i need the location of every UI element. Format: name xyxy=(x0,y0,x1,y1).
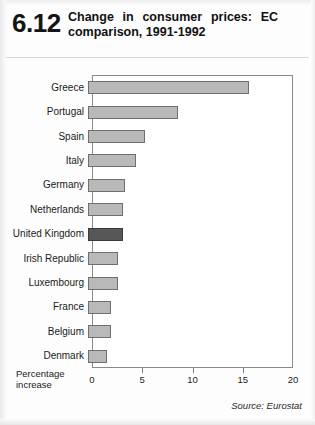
bar-label-greece: Greece xyxy=(0,82,88,93)
x-tick-label: 20 xyxy=(288,374,299,385)
page-edge-bottom xyxy=(0,419,315,425)
bar-track xyxy=(88,223,289,245)
bar-track xyxy=(88,125,289,147)
bar-portugal xyxy=(88,106,178,119)
bar-track xyxy=(88,76,289,98)
bar-label-italy: Italy xyxy=(0,155,88,166)
x-tick-label: 0 xyxy=(89,374,94,385)
bar-track xyxy=(88,320,289,342)
bar-label-united-kingdom: United Kingdom xyxy=(0,228,88,239)
bar-rows: GreecePortugalSpainItalyGermanyNetherlan… xyxy=(0,75,315,368)
x-tick xyxy=(193,368,194,373)
bar-row: Irish Republic xyxy=(0,247,315,269)
bar-track xyxy=(88,149,289,171)
bar-row: Netherlands xyxy=(0,198,315,220)
bar-row: France xyxy=(0,296,315,318)
bar-row: Italy xyxy=(0,149,315,171)
page-edge-top xyxy=(0,0,315,5)
bar-track xyxy=(88,345,289,367)
bar-row: Spain xyxy=(0,125,315,147)
bar-label-belgium: Belgium xyxy=(0,326,88,337)
bar-luxembourg xyxy=(88,277,118,290)
bar-track xyxy=(88,272,289,294)
x-axis: 05101520 xyxy=(92,368,293,392)
bar-italy xyxy=(88,154,136,167)
x-axis-caption-line-2: increase xyxy=(16,380,90,391)
x-tick-label: 15 xyxy=(237,374,248,385)
bar-track xyxy=(88,247,289,269)
bar-label-germany: Germany xyxy=(0,179,88,190)
bar-denmark xyxy=(88,350,107,363)
figure-title-line-1: Change in consumer prices: EC xyxy=(68,10,278,25)
bar-track xyxy=(88,101,289,123)
bar-greece xyxy=(88,81,249,94)
bar-row: United Kingdom xyxy=(0,223,315,245)
figure-container: 6.12 Change in consumer prices: EC compa… xyxy=(0,0,315,425)
figure-title-line-2: comparison, 1991-1992 xyxy=(68,25,278,40)
x-tick-label: 5 xyxy=(140,374,145,385)
figure-number: 6.12 xyxy=(8,8,68,38)
bar-label-spain: Spain xyxy=(0,131,88,142)
bar-spain xyxy=(88,130,145,143)
bar-row: Luxembourg xyxy=(0,272,315,294)
x-axis-caption-line-1: Percentage xyxy=(16,369,90,380)
bar-germany xyxy=(88,179,125,192)
bar-track xyxy=(88,174,289,196)
x-axis-caption: Percentage increase xyxy=(16,369,90,390)
bar-row: Portugal xyxy=(0,101,315,123)
bar-label-denmark: Denmark xyxy=(0,350,88,361)
x-tick xyxy=(243,368,244,373)
figure-header: 6.12 Change in consumer prices: EC compa… xyxy=(8,8,308,52)
figure-title: Change in consumer prices: EC comparison… xyxy=(68,8,278,40)
bar-label-netherlands: Netherlands xyxy=(0,204,88,215)
bar-france xyxy=(88,301,111,314)
bar-row: Denmark xyxy=(0,345,315,367)
bar-label-irish-republic: Irish Republic xyxy=(0,253,88,264)
bar-row: Greece xyxy=(0,76,315,98)
x-tick-label: 10 xyxy=(187,374,198,385)
x-tick xyxy=(142,368,143,373)
bar-label-portugal: Portugal xyxy=(0,106,88,117)
bar-belgium xyxy=(88,325,111,338)
bar-netherlands xyxy=(88,203,123,216)
bar-united-kingdom xyxy=(88,228,123,241)
bar-row: Germany xyxy=(0,174,315,196)
header-divider xyxy=(6,57,309,58)
source-note: Source: Eurostat xyxy=(231,400,302,411)
bar-label-france: France xyxy=(0,301,88,312)
chart-area: GreecePortugalSpainItalyGermanyNetherlan… xyxy=(0,63,315,393)
bar-label-luxembourg: Luxembourg xyxy=(0,277,88,288)
bar-track xyxy=(88,198,289,220)
bar-row: Belgium xyxy=(0,320,315,342)
bar-irish-republic xyxy=(88,252,118,265)
bar-track xyxy=(88,296,289,318)
